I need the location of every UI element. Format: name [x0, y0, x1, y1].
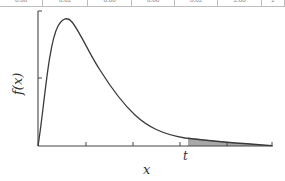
x-axis-label: x: [143, 162, 151, 177]
y-axis-label: f(x): [10, 73, 25, 96]
t-marker-label: t: [183, 149, 188, 163]
density-chart: x t f(x): [0, 0, 285, 181]
density-curve: [38, 19, 272, 146]
